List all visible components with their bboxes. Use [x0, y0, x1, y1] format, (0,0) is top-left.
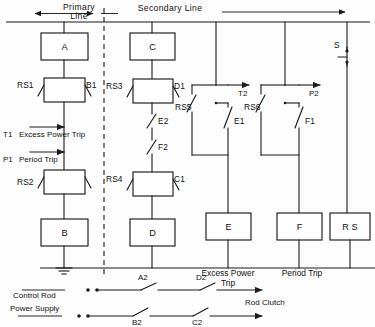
contact-E2[interactable]	[147, 114, 156, 128]
schematic-diagram: Primary Line Secondary Line A	[0, 0, 375, 327]
column-RS: S R S	[330, 40, 370, 268]
control-rod-label: Control Rod	[13, 291, 56, 300]
signal-P2-tag: P2	[309, 89, 319, 98]
signal-T2-tag: T2	[238, 89, 248, 98]
box-B-label: B	[61, 228, 67, 238]
excess-power-trip-label-2: Trip	[221, 278, 235, 288]
switch-A2-label: A2	[138, 273, 148, 282]
relay-RS4-C1	[133, 172, 173, 196]
contact-RS4[interactable]	[127, 179, 133, 190]
node-f1-tap	[284, 102, 287, 105]
relay-RS2	[44, 170, 85, 194]
contact-RS2[interactable]	[38, 177, 44, 188]
contact-E1-label: E1	[234, 116, 245, 126]
signal-P1-tag: P1	[3, 155, 13, 164]
contact-F2-label: F2	[158, 142, 168, 152]
switch-B2-label: B2	[132, 318, 142, 327]
contact-RS1[interactable]	[38, 85, 44, 96]
column-C: C RS3 D1 E2 F2 RS4 C1 D	[106, 33, 185, 268]
switch-C2-label: C2	[192, 318, 203, 327]
contact-F2[interactable]	[147, 140, 156, 154]
rod-clutch-label: Rod Clutch	[245, 298, 285, 307]
box-E-label: E	[225, 222, 231, 232]
box-D-label: D	[149, 228, 156, 238]
switch-C2[interactable]	[193, 308, 208, 316]
switch-D2[interactable]	[200, 283, 215, 290]
switch-B2[interactable]	[133, 308, 148, 316]
relay-RS3-D1	[133, 79, 173, 103]
contact-RS6-label: RS6	[244, 102, 261, 112]
contact-RS2-right[interactable]	[85, 177, 91, 188]
relay-C1-label: C1	[174, 174, 185, 184]
column-E: RS5 T2 E1 E	[175, 85, 251, 268]
node-row1-start	[86, 288, 90, 292]
box-RS-label: R S	[342, 222, 357, 232]
relay-RS2-label: RS2	[17, 177, 34, 187]
ground-symbol	[56, 268, 72, 274]
bottom-annotations: Excess Power Trip Period Trip	[201, 268, 322, 288]
contact-E1[interactable]	[224, 107, 232, 128]
contact-F1[interactable]	[295, 107, 303, 128]
node-row2-start	[77, 314, 81, 318]
secondary-line-label: Secondary Line	[138, 3, 203, 13]
signal-T1-text: Excess Power Trip	[19, 130, 86, 139]
primary-line-label-2: Line	[70, 11, 88, 21]
box-F-label: F	[297, 222, 303, 232]
column-F: RS6 P2 F1 F	[244, 85, 322, 268]
box-A-label: A	[61, 42, 68, 52]
switch-A2[interactable]	[141, 283, 156, 290]
signal-T1-tag: T1	[3, 130, 13, 139]
relay-RS4-label: RS4	[106, 174, 123, 184]
box-C-label: C	[149, 42, 156, 52]
signal-P1-text: Period Trip	[19, 155, 58, 164]
relay-RS1-label: RS1	[17, 80, 34, 90]
node-e1-tap	[215, 102, 218, 105]
switch-S-label: S	[334, 40, 340, 50]
switch-D2-label: D2	[196, 273, 207, 282]
excess-power-trip-label-1: Excess Power	[201, 268, 254, 278]
rod-clutch-circuit: Control Rod Power Supply A2 D2 B2 C2 Rod	[10, 273, 285, 327]
contact-E2-label: E2	[158, 116, 169, 126]
power-supply-label: Power Supply	[10, 304, 59, 313]
column-A: A RS1 B1 T1 Excess Power Trip P1 Period …	[3, 33, 97, 274]
contact-F1-label: F1	[305, 116, 315, 126]
relay-D1-label: D1	[174, 81, 185, 91]
relay-B1-label: B1	[86, 80, 97, 90]
period-trip-label: Period Trip	[282, 268, 323, 278]
title-band: Primary Line Secondary Line	[35, 2, 345, 21]
contact-RS5-label: RS5	[175, 102, 192, 112]
relay-RS3-label: RS3	[106, 81, 123, 91]
contact-RS3[interactable]	[127, 86, 133, 97]
relay-RS1-B1	[44, 78, 85, 102]
schematic-svg: Primary Line Secondary Line A	[0, 0, 375, 327]
